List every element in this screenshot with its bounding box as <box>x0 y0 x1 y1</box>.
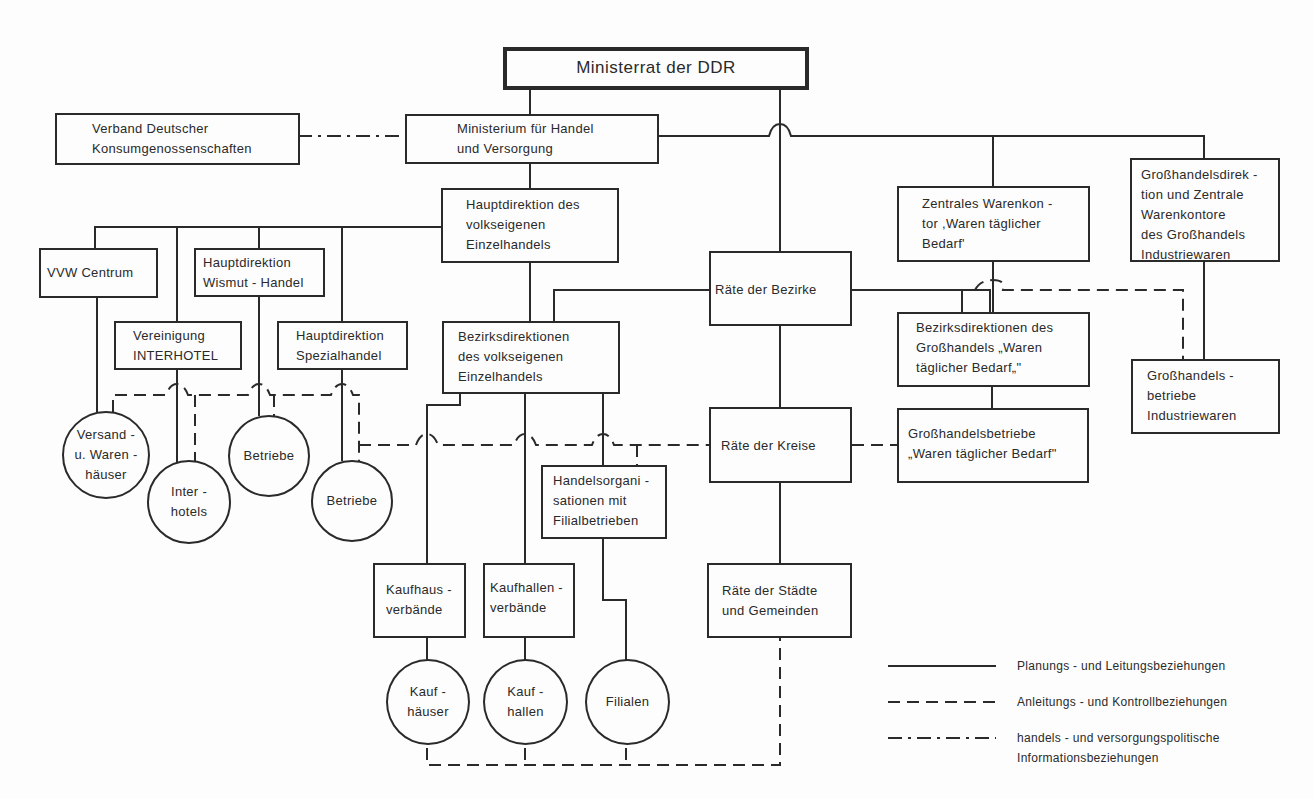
node-zentrales-warenkontor: Zentrales Warenkon - tor ,Waren tägliche… <box>897 186 1090 262</box>
node-verband: Verband Deutscher Konsumgenossenschaften <box>55 113 300 165</box>
circle-versand-warenhaeuser: Versand - u. Waren - häuser <box>62 411 150 499</box>
circle-kaufhallen: Kauf - hallen <box>483 659 568 745</box>
node-kaufhausverbaende: Kaufhaus - verbände <box>373 563 466 638</box>
node-ministerium: Ministerium für Handel und Versorgung <box>405 114 659 164</box>
circle-betriebe-spezial: Betriebe <box>311 460 393 542</box>
node-ghb-industriewaren: Großhandels - betriebe Industriewaren <box>1131 359 1280 434</box>
circle-betriebe-wismut: Betriebe <box>228 415 310 497</box>
node-bezirksdir-gh: Bezirksdirektionen des Großhandels „Ware… <box>897 312 1090 387</box>
node-ghb-wtb: Großhandelsbetriebe „Waren täglicher Bed… <box>897 408 1089 483</box>
node-ministerrat: Ministerrat der DDR <box>503 47 809 90</box>
node-raete-bezirke: Räte der Bezirke <box>709 251 852 326</box>
circle-filialen: Filialen <box>585 659 670 745</box>
legend-solid-label: Planungs - und Leitungsbeziehungen <box>1017 656 1225 676</box>
node-raete-staedte: Räte der Städte und Gemeinden <box>707 563 852 638</box>
node-ghd-industriewaren: Großhandelsdirek - tion und Zentrale War… <box>1130 158 1280 262</box>
node-vvw-centrum: VVW Centrum <box>39 248 158 298</box>
node-kaufhallenverbaende: Kaufhallen - verbände <box>483 563 575 638</box>
node-raete-kreise: Räte der Kreise <box>709 407 852 483</box>
node-handelsorganisationen: Handelsorgani - sationen mit Filialbetri… <box>541 465 667 539</box>
node-hd-wismut: Hauptdirektion Wismut - Handel <box>194 248 325 297</box>
circle-kaufhaeuser: Kauf - häuser <box>386 659 470 745</box>
legend-dashdot-label: handels - und versorgungspolitische Info… <box>1017 728 1220 768</box>
node-interhotel: Vereinigung INTERHOTEL <box>114 321 242 370</box>
legend-dashed-label: Anleitungs - und Kontrollbeziehungen <box>1017 692 1227 712</box>
circle-interhotels: Inter - hotels <box>147 460 231 544</box>
node-hauptdirektion-ve: Hauptdirektion des volkseigenen Einzelha… <box>441 188 619 263</box>
node-bezirksdir-ve: Bezirksdirektionen des volkseigenen Einz… <box>442 321 620 394</box>
node-hd-spezial: Hauptdirektion Spezialhandel <box>277 321 408 370</box>
